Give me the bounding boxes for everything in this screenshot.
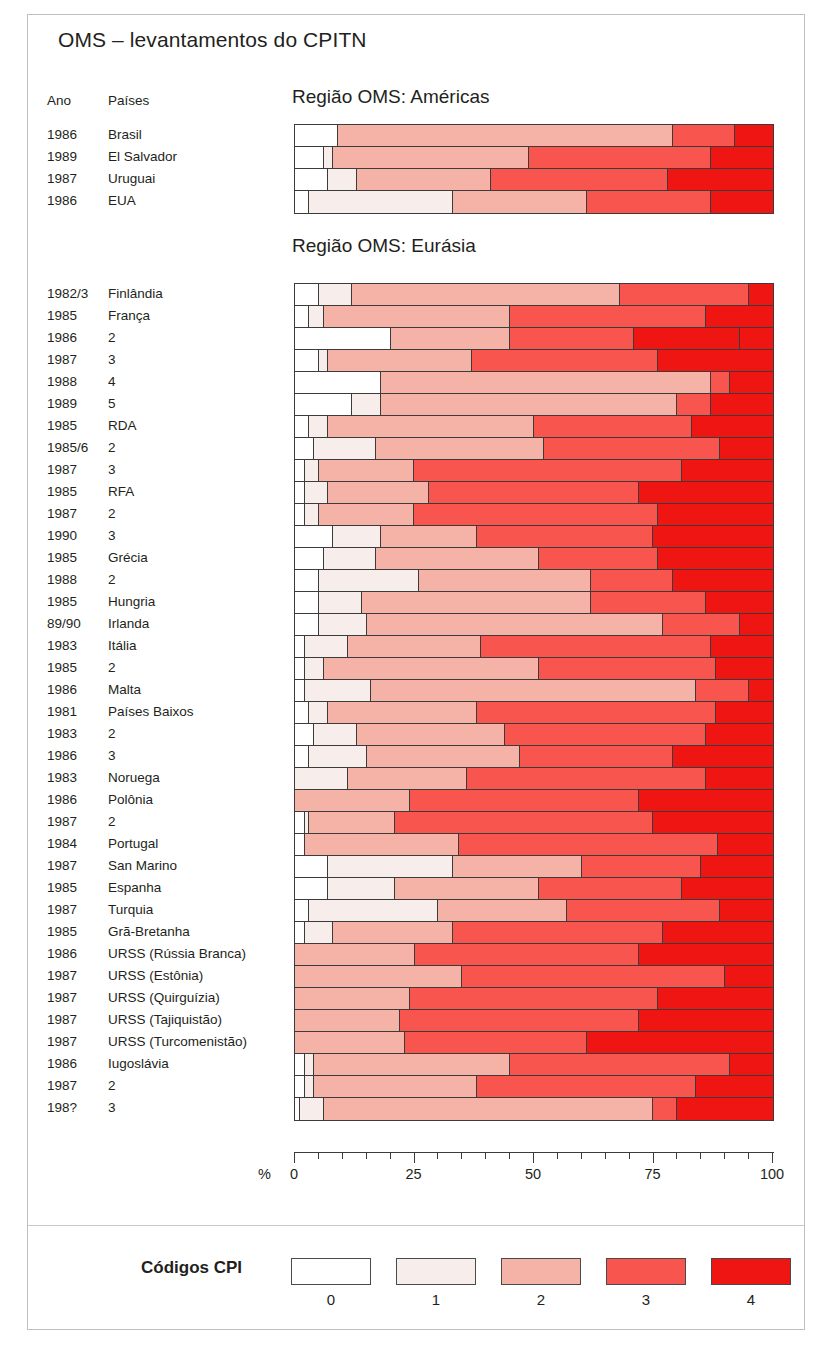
bar-segment-cpi-0 <box>295 460 305 481</box>
bar-segment-cpi-4 <box>692 416 773 437</box>
bar-row <box>295 878 773 900</box>
x-axis-minor-tick <box>557 1152 558 1159</box>
bar-segment-cpi-2 <box>324 1098 654 1120</box>
bar-row <box>295 636 773 658</box>
row-country-label: Grécia <box>108 547 293 569</box>
bar-plot-americas <box>294 124 774 214</box>
bar-segment-cpi-2 <box>453 856 582 877</box>
bar-segment-cpi-3 <box>582 856 702 877</box>
bar-segment-cpi-4 <box>639 944 773 965</box>
row-year-label: 1987 <box>47 168 107 190</box>
x-axis-minor-tick <box>629 1152 630 1159</box>
bar-segment-cpi-4 <box>718 834 773 855</box>
x-axis-tick-label: 25 <box>405 1166 421 1182</box>
row-year-label: 1987 <box>47 855 107 877</box>
x-axis-major-tick <box>533 1152 534 1163</box>
bar-segment-cpi-2 <box>324 658 539 679</box>
row-country-label: Irlanda <box>108 613 293 635</box>
bar-segment-cpi-4 <box>711 147 773 168</box>
row-country-label: Hungria <box>108 591 293 613</box>
bar-row <box>295 1010 773 1032</box>
bar-segment-cpi-4 <box>730 372 773 393</box>
bar-segment-cpi-0 <box>295 350 319 371</box>
x-axis-minor-tick <box>581 1152 582 1159</box>
row-year-label: 1985 <box>47 415 107 437</box>
row-year-label: 1983 <box>47 635 107 657</box>
bar-segment-cpi-3 <box>467 768 706 789</box>
bar-segment-cpi-2 <box>328 702 476 723</box>
x-axis-minor-tick <box>676 1152 677 1159</box>
bar-segment-cpi-2 <box>367 614 663 635</box>
bar-segment-cpi-0 <box>295 878 328 899</box>
bar-segment-cpi-1 <box>305 504 319 525</box>
bar-segment-cpi-0 <box>295 372 381 393</box>
legend-label: 4 <box>711 1291 791 1308</box>
bar-segment-cpi-3 <box>591 592 706 613</box>
bar-segment-cpi-3 <box>395 812 653 833</box>
row-country-label: Turquia <box>108 899 293 921</box>
bar-segment-cpi-4 <box>639 482 773 503</box>
bar-segment-cpi-2 <box>314 1076 477 1097</box>
bar-segment-cpi-4 <box>658 988 773 1009</box>
row-year-label: 1989 <box>47 146 107 168</box>
x-axis-major-tick <box>414 1152 415 1163</box>
bar-segment-cpi-0 <box>295 702 309 723</box>
bar-segment-cpi-1 <box>309 746 366 767</box>
legend-item-cpi-4: 4 <box>711 1258 791 1308</box>
bar-segment-cpi-4 <box>587 1032 773 1053</box>
bar-row <box>295 614 773 636</box>
bar-segment-cpi-0 <box>295 438 314 459</box>
bar-row <box>295 1098 773 1120</box>
bar-segment-cpi-2 <box>381 394 677 415</box>
bar-segment-cpi-1 <box>328 878 395 899</box>
bar-plot-eurasia <box>294 283 774 1121</box>
row-country-label: 3 <box>108 459 293 481</box>
bar-segment-cpi-2 <box>453 191 587 213</box>
bar-row <box>295 1032 773 1054</box>
bar-segment-cpi-2 <box>352 284 620 305</box>
bar-segment-cpi-4 <box>658 504 773 525</box>
bar-segment-cpi-4 <box>711 636 773 657</box>
bar-row <box>295 834 773 856</box>
legend-swatch <box>606 1258 686 1285</box>
row-year-label: 1981 <box>47 701 107 723</box>
bar-segment-cpi-0 <box>295 834 305 855</box>
row-country-label: Polônia <box>108 789 293 811</box>
row-year-label: 1987 <box>47 1009 107 1031</box>
bar-segment-cpi-0 <box>295 856 328 877</box>
bar-segment-cpi-2 <box>391 328 511 349</box>
bar-segment-cpi-1 <box>319 284 352 305</box>
row-country-label: 2 <box>108 657 293 679</box>
bar-segment-cpi-0 <box>295 504 305 525</box>
bar-segment-cpi-4 <box>711 394 773 415</box>
bar-segment-cpi-3 <box>510 328 634 349</box>
page-title: OMS – levantamentos do CPITN <box>58 28 367 52</box>
bar-row <box>295 350 773 372</box>
bar-row <box>295 548 773 570</box>
x-axis-minor-tick <box>700 1152 701 1159</box>
bar-segment-cpi-3 <box>414 504 658 525</box>
bar-segment-cpi-0 <box>295 416 309 437</box>
bar-segment-cpi-1 <box>309 191 452 213</box>
x-axis-minor-tick <box>724 1152 725 1159</box>
bar-row <box>295 900 773 922</box>
row-country-label: Iugoslávia <box>108 1053 293 1075</box>
bar-segment-cpi-2 <box>438 900 567 921</box>
row-country-label: Países Baixos <box>108 701 293 723</box>
bar-segment-cpi-2 <box>319 504 415 525</box>
bar-row <box>295 944 773 966</box>
row-country-label: 2 <box>108 723 293 745</box>
bar-segment-cpi-4 <box>706 306 773 327</box>
bar-segment-cpi-0 <box>295 306 309 327</box>
bar-segment-cpi-3 <box>472 350 658 371</box>
bar-segment-cpi-3 <box>505 724 706 745</box>
row-year-label: 1987 <box>47 1031 107 1053</box>
legend-item-cpi-2: 2 <box>501 1258 581 1308</box>
legend-swatch <box>291 1258 371 1285</box>
bar-segment-cpi-0 <box>295 636 305 657</box>
bar-segment-cpi-3 <box>529 147 711 168</box>
bar-segment-cpi-2 <box>314 1054 510 1075</box>
row-country-label: 3 <box>108 349 293 371</box>
bar-segment-cpi-4 <box>663 922 773 943</box>
bar-segment-cpi-4 <box>673 570 773 591</box>
